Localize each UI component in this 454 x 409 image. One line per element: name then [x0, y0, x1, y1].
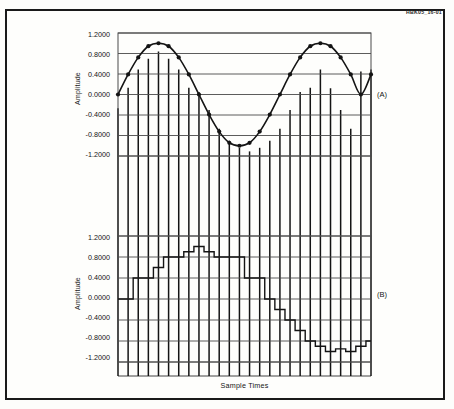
sample-point-marker: [258, 130, 262, 134]
sample-point-marker: [136, 55, 140, 59]
sample-point-marker: [177, 55, 181, 59]
sample-point-marker: [298, 55, 302, 59]
plot-canvas: [0, 0, 454, 409]
sample-point-marker: [339, 55, 343, 59]
figure-root: HBK05_16-01 1.2000 0.8000 0.4000 0.0000 …: [0, 0, 454, 409]
sample-point-marker: [349, 72, 353, 76]
sample-point-marker: [207, 112, 211, 116]
sample-point-marker: [278, 92, 282, 96]
sample-point-marker: [288, 72, 292, 76]
panel-b-gridlines: [118, 236, 371, 362]
sample-point-marker: [247, 141, 251, 145]
sample-point-marker: [369, 72, 373, 76]
sample-point-marker: [146, 44, 150, 48]
sample-point-marker: [187, 72, 191, 76]
sample-point-marker: [156, 41, 160, 45]
sample-point-marker: [268, 112, 272, 116]
sample-point-marker: [116, 92, 120, 96]
sample-point-marker: [308, 44, 312, 48]
sample-point-marker: [318, 41, 322, 45]
sample-point-marker: [197, 92, 201, 96]
sample-point-marker: [328, 44, 332, 48]
sample-point-marker: [237, 144, 241, 148]
sample-point-marker: [167, 44, 171, 48]
panel-a-gridlines: [118, 33, 371, 156]
sample-point-marker: [217, 130, 221, 134]
sample-lines-layer: [118, 51, 371, 376]
sample-point-marker: [126, 72, 130, 76]
sample-point-marker: [227, 141, 231, 145]
sample-point-marker: [359, 92, 363, 96]
